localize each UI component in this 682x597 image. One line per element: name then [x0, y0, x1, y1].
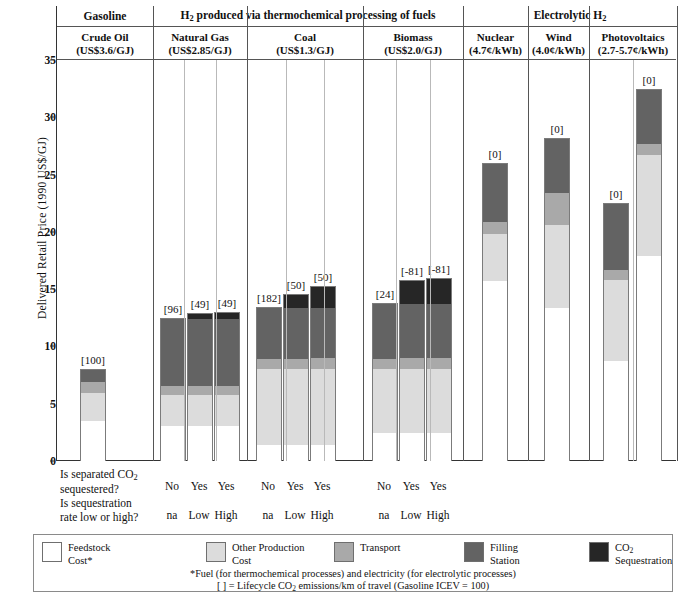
subgroup-name: Coal — [294, 31, 316, 44]
bar-segment-feed — [188, 426, 212, 461]
legend-swatch-filling-station — [464, 542, 484, 562]
bar-segment-fill — [373, 304, 397, 359]
bar-segment-other — [257, 369, 281, 445]
subgroup-header-coal: Coal(US$1.3/GJ) — [247, 27, 363, 60]
bar-natural-gas-high[interactable] — [214, 312, 240, 461]
legend-swatch-other-production-cost — [206, 542, 226, 562]
legend-item-co2-sequestration: CO2Sequestration — [589, 542, 672, 567]
answer-seq-rate: Low — [284, 509, 305, 521]
emissions-index-label: [0] — [643, 74, 656, 86]
answer-sequestered: No — [377, 480, 391, 492]
bar-segment-trans — [161, 386, 185, 395]
y-tick-mark-5 — [50, 403, 55, 404]
y-tick-mark-20 — [50, 231, 55, 232]
bar-segment-trans — [545, 193, 569, 225]
emissions-index-label: [50] — [287, 279, 305, 291]
bar-segment-seq — [284, 295, 308, 309]
bar-segment-other — [604, 280, 628, 361]
bar-segment-trans — [257, 359, 281, 369]
group-header-electrolytic-h2: Electrolytic H2 — [463, 6, 677, 27]
subgroup-name: Nuclear — [477, 31, 514, 44]
plot-frame: GasolineH2 produced via thermochemical p… — [56, 6, 676, 461]
answer-seq-rate: High — [427, 509, 450, 521]
subcolumn-separator — [324, 60, 325, 461]
emissions-index-label: [-81] — [401, 265, 423, 277]
bar-biomass-low[interactable] — [399, 280, 425, 461]
group-header-text: Electrolytic H2 — [534, 9, 607, 23]
subgroup-price: (4.7¢/kWh) — [469, 44, 522, 57]
legend-item-transport: Transport — [334, 542, 400, 562]
bar-segment-fill — [257, 308, 281, 358]
question-seq-rate: Is sequestration rate low or high? — [60, 497, 138, 524]
bar-segment-other — [161, 395, 185, 426]
legend-label-feedstock-cost: FeedstockCost* — [68, 542, 111, 567]
bar-coal-na[interactable] — [256, 307, 282, 461]
y-tick-mark-10 — [50, 346, 55, 347]
bar-segment-fill — [637, 90, 661, 145]
question-sequestered: Is separated CO2 sequestered? — [60, 468, 138, 496]
bar-segment-feed — [311, 445, 335, 461]
y-tick-mark-0 — [50, 461, 55, 462]
bar-segment-fill — [81, 370, 105, 381]
answer-sequestered: Yes — [191, 480, 208, 492]
bar-biomass-na[interactable] — [372, 303, 398, 461]
emissions-index-label: [0] — [489, 148, 502, 160]
bar-segment-other — [373, 369, 397, 433]
bar-segment-fill — [161, 319, 185, 386]
bar-segment-feed — [81, 421, 105, 461]
answer-sequestered: Yes — [287, 480, 304, 492]
legend-label-filling-station: FillingStation — [490, 542, 520, 567]
question-seq-rate-line2: rate low or high? — [60, 511, 138, 523]
legend-swatch-feedstock-cost — [42, 542, 62, 562]
answer-seq-rate: Low — [400, 509, 421, 521]
column-separator — [153, 6, 154, 461]
bar-photovoltaics-high[interactable] — [636, 89, 662, 461]
question-block: Is separated CO2 sequestered? Is sequest… — [56, 466, 676, 528]
bar-photovoltaics-low[interactable] — [603, 203, 629, 461]
emissions-index-label: [0] — [610, 188, 623, 200]
answer-sequestered: Yes — [430, 480, 447, 492]
bar-segment-trans — [81, 382, 105, 393]
plot-right-edge — [677, 6, 678, 461]
bar-gasoline[interactable] — [80, 369, 106, 461]
bar-segment-other — [311, 369, 335, 445]
subgroup-name: Photovoltaics — [602, 31, 665, 44]
bar-segment-feed — [637, 256, 661, 461]
answer-seq-rate: High — [215, 509, 238, 521]
subgroup-price: (US$3.6/GJ) — [76, 44, 134, 57]
bar-coal-high[interactable] — [310, 286, 336, 461]
emissions-index-label: [24] — [376, 288, 394, 300]
bar-segment-feed — [257, 445, 281, 461]
subcolumn-separator — [430, 60, 431, 461]
answer-sequestered: Yes — [314, 480, 331, 492]
emissions-index-label: [182] — [257, 292, 281, 304]
bar-segment-feed — [161, 426, 185, 461]
legend-item-feedstock-cost: FeedstockCost* — [42, 542, 111, 567]
subgroup-header-pv: Photovoltaics(2.7-5.7¢/kWh) — [589, 27, 677, 60]
bar-nuclear[interactable] — [482, 163, 508, 461]
column-separator — [589, 6, 590, 461]
question-seq-rate-line1: Is sequestration — [60, 497, 132, 509]
bar-segment-fill — [604, 204, 628, 270]
bar-segment-seq — [311, 287, 335, 309]
subcolumn-separator — [633, 60, 634, 461]
subgroup-header-wind: Wind(4.0¢/kWh) — [528, 27, 589, 60]
legend: *Fuel (for thermochemical processes) and… — [33, 534, 673, 592]
legend-footnote-lifecycle: [ ] = Lifecycle CO2 emissions/km of trav… — [34, 580, 672, 593]
bar-natural-gas-na[interactable] — [160, 318, 186, 461]
column-separator — [247, 6, 248, 461]
subgroup-header-gasoline: Crude Oil(US$3.6/GJ) — [57, 27, 153, 60]
bar-segment-other — [81, 393, 105, 421]
bar-natural-gas-low[interactable] — [187, 313, 213, 461]
subgroup-name: Crude Oil — [81, 31, 128, 44]
column-separator — [463, 6, 464, 461]
subgroup-header-nuclear: Nuclear(4.7¢/kWh) — [463, 27, 528, 60]
bar-coal-low[interactable] — [283, 294, 309, 461]
y-axis: 05101520253035 — [14, 0, 56, 597]
column-separator — [528, 6, 529, 461]
chart-page: Delivered Retail Price (1990 US$/GJ) 051… — [0, 0, 682, 597]
emissions-index-label: [50] — [314, 271, 332, 283]
bar-segment-trans — [400, 358, 424, 368]
question-sequestered-line2: sequestered? — [60, 483, 119, 495]
bar-wind[interactable] — [544, 138, 570, 461]
